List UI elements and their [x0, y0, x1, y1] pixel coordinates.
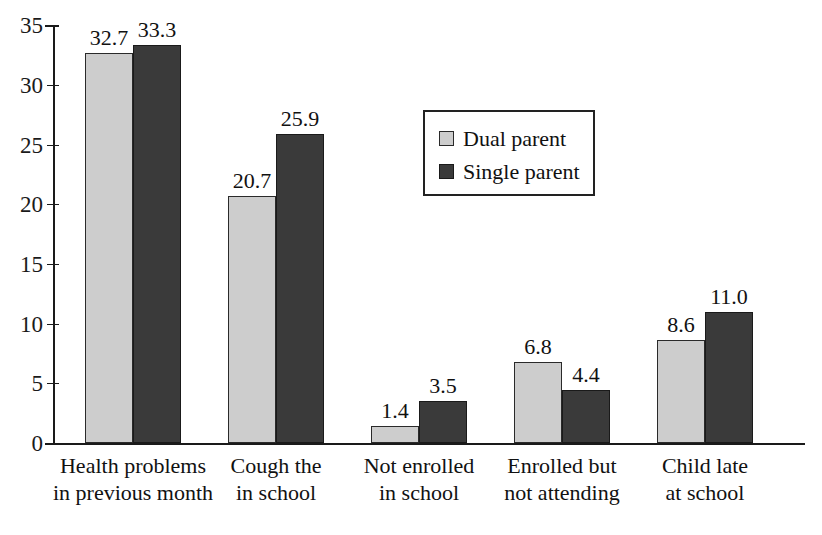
- legend-swatch-single-parent-icon: [439, 164, 454, 179]
- bar-value-dual-child-late: 8.6: [657, 314, 705, 336]
- bar-dual-not-enrolled: [371, 426, 419, 443]
- bar-value-single-enrolled-not-attending: 4.4: [562, 364, 610, 386]
- bar-dual-cough: [228, 196, 276, 443]
- bar-single-cough: [276, 134, 324, 443]
- bar-value-single-cough: 25.9: [276, 108, 324, 130]
- x-category-child-late: Child late at school: [615, 452, 795, 506]
- bar-single-not-enrolled: [419, 401, 467, 443]
- bar-value-single-health-problems: 33.3: [133, 19, 181, 41]
- x-category-child-late-line1: Child late: [615, 452, 795, 479]
- bar-dual-enrolled-not-attending: [514, 362, 562, 443]
- bar-single-child-late: [705, 312, 753, 443]
- legend-item-dual-parent: Dual parent: [439, 122, 593, 155]
- bar-value-dual-health-problems: 32.7: [85, 27, 133, 49]
- bar-single-enrolled-not-attending: [562, 390, 610, 443]
- legend: Dual parent Single parent: [423, 110, 595, 196]
- y-tick-0: [45, 443, 59, 445]
- bar-value-dual-enrolled-not-attending: 6.8: [514, 336, 562, 358]
- legend-item-single-parent: Single parent: [439, 155, 593, 188]
- bar-single-health-problems: [133, 45, 181, 443]
- x-category-child-late-line2: at school: [615, 479, 795, 506]
- bar-dual-child-late: [657, 340, 705, 443]
- x-axis-line: [53, 443, 805, 445]
- legend-label-dual-parent: Dual parent: [463, 128, 566, 150]
- bars-layer: 32.7 33.3 20.7 25.9 1.4 3.5 6.8 4.4 8.6 …: [0, 0, 822, 443]
- legend-swatch-dual-parent-icon: [439, 131, 454, 146]
- bar-value-single-child-late: 11.0: [701, 286, 757, 308]
- bar-value-dual-cough: 20.7: [228, 170, 276, 192]
- bar-dual-health-problems: [85, 53, 133, 443]
- bar-chart: 35 30 25 20 15 10 5 0 32.7 33.3 20.7 25.…: [0, 0, 822, 535]
- legend-label-single-parent: Single parent: [463, 161, 580, 183]
- bar-value-single-not-enrolled: 3.5: [419, 375, 467, 397]
- bar-value-dual-not-enrolled: 1.4: [371, 400, 419, 422]
